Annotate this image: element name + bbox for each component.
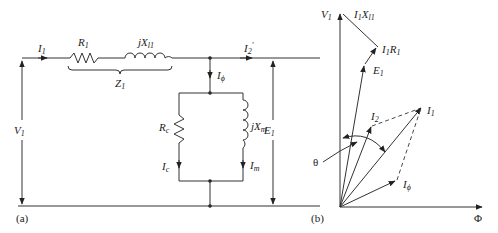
dashed-iphi-to-i1 xyxy=(397,108,421,180)
r1-resistor xyxy=(70,53,98,63)
flux-axis-label: Φ xyxy=(474,212,482,224)
i1-label: I1 xyxy=(37,42,46,56)
jxl1-label: jXl1 xyxy=(136,36,154,50)
i2-prime-label: I2′ xyxy=(243,41,254,56)
i-phi-phasor-label: Iϕ xyxy=(402,178,411,192)
i-phi-label: Iϕ xyxy=(216,69,225,83)
e1-phasor-label: E1 xyxy=(372,64,384,78)
ic-label: Ic xyxy=(161,160,170,174)
i1xl1-label: I1Xl1 xyxy=(353,8,375,22)
equivalent-circuit: I1 R1 jXl1 Z1 I2′ Iϕ Rc jXm Ic Im V1 E1 … xyxy=(14,36,320,225)
panel-b-caption: (b) xyxy=(311,212,324,225)
i1r1-label: I1R1 xyxy=(381,43,400,57)
z1-label: Z1 xyxy=(115,77,125,91)
rc-resistor xyxy=(174,115,184,143)
transformer-figure: I1 R1 jXl1 Z1 I2′ Iϕ Rc jXm Ic Im V1 E1 … xyxy=(0,0,498,233)
magnetizing-inductor xyxy=(243,100,248,148)
i1r1-drop-phasor xyxy=(365,48,376,64)
i1-phasor-label: I1 xyxy=(426,104,435,118)
im-label: Im xyxy=(249,159,260,173)
e1-label: E1 xyxy=(263,124,275,138)
z1-brace xyxy=(68,66,172,74)
panel-a-caption: (a) xyxy=(16,212,29,225)
theta-label: θ xyxy=(313,156,318,168)
v1-label: V1 xyxy=(14,124,25,138)
i2-phasor-label: I2 xyxy=(370,110,379,124)
r1-label: R1 xyxy=(77,36,89,50)
leakage-inductor xyxy=(125,53,172,58)
rc-label: Rc xyxy=(158,121,170,135)
v1-phasor-label: V1 xyxy=(321,8,332,22)
phasor-diagram: V1 I1Xl1 I1R1 E1 I2 I1 Iϕ θ Φ (b) xyxy=(311,8,482,225)
